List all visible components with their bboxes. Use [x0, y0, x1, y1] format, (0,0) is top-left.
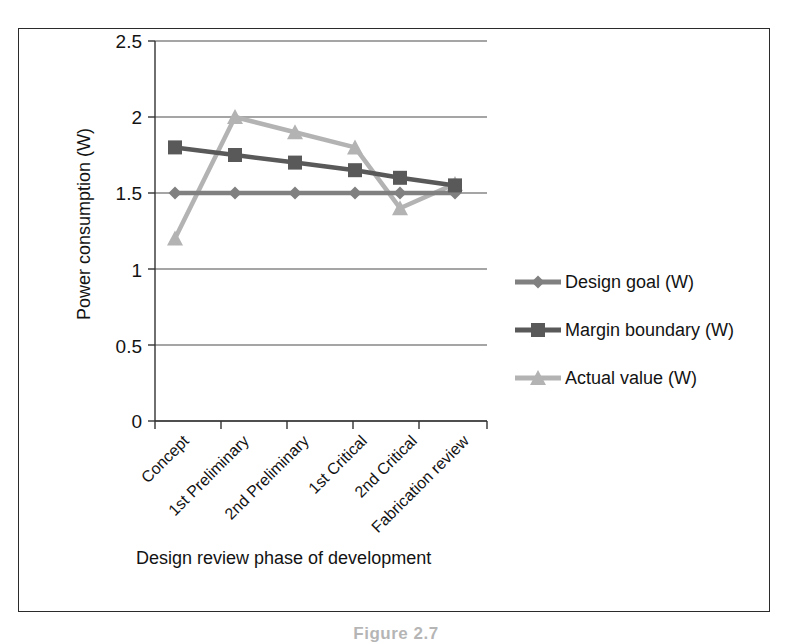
data-marker-diamond [229, 187, 242, 200]
legend-label-design-goal: Design goal (W) [565, 272, 694, 293]
legend-label-actual-value: Actual value (W) [565, 368, 697, 389]
y-tick-label: 1.5 [96, 183, 142, 205]
y-tick-label: 0.5 [96, 336, 142, 358]
legend-swatch-square [515, 323, 561, 337]
data-marker-square [348, 163, 362, 177]
y-tick-label: 2.5 [96, 31, 142, 53]
legend-swatch-triangle [515, 370, 561, 385]
data-marker-square [448, 178, 462, 192]
y-axis-title: Power consumption (W) [74, 128, 95, 320]
data-marker-square [288, 156, 302, 170]
data-marker-diamond [394, 187, 407, 200]
y-tick-label: 2 [96, 107, 142, 129]
legend-swatch-diamond [515, 276, 561, 289]
data-marker-square [393, 171, 407, 185]
data-marker-triangle [167, 231, 183, 246]
figure-caption: Figure 2.7 [0, 624, 792, 642]
data-marker-diamond [169, 187, 182, 200]
data-marker-diamond [532, 276, 545, 289]
y-tick-label: 0 [96, 411, 142, 433]
y-tick-label: 1 [96, 260, 142, 282]
legend-label-margin-boundary: Margin boundary (W) [565, 320, 734, 341]
series-line [175, 147, 455, 185]
data-marker-square [168, 140, 182, 154]
series-diamond [169, 187, 462, 200]
series-triangle [167, 109, 463, 246]
data-marker-square [228, 148, 242, 162]
x-axis-title: Design review phase of development [136, 548, 431, 569]
data-marker-diamond [349, 187, 362, 200]
data-marker-diamond [289, 187, 302, 200]
data-marker-square [531, 323, 545, 337]
